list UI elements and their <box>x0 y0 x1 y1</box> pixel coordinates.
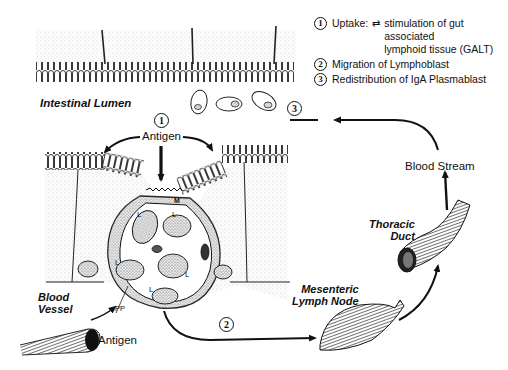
plasmablast-cells <box>189 88 279 116</box>
lymphocyte-label-5: L <box>149 285 153 294</box>
legend-uptake-detail-2: lymphoid tissue (GALT) <box>384 43 508 56</box>
legend-uptake-label: Uptake <box>332 17 365 30</box>
step-3-badge: 3 <box>314 73 327 86</box>
pp-label: PP <box>115 304 125 313</box>
legend-uptake-detail-1: stimulation of gut associated <box>384 17 508 43</box>
intestinal-lumen-label: Intestinal Lumen <box>40 97 131 109</box>
step-1-marker: 1 <box>154 113 169 128</box>
upper-epithelium <box>36 26 296 82</box>
thoracic-duct-label: Thoracic Duct <box>369 218 415 242</box>
step-1-badge: 1 <box>314 17 327 30</box>
legend-migration-label: Migration of Lymphoblast <box>332 58 449 71</box>
mesenteric-lymph-node <box>320 300 404 350</box>
bidirectional-arrow-icon: ⇄ <box>372 17 380 30</box>
antigen-label-top: Antigen <box>142 130 181 142</box>
blood-stream-label: Blood Stream <box>405 160 475 172</box>
legend-item-migration: 2 Migration of Lymphoblast <box>314 58 508 71</box>
legend: 1 Uptake: ⇄ stimulation of gut associate… <box>314 17 508 86</box>
m-cell-label: M <box>174 197 180 204</box>
step-2-badge: 2 <box>314 58 327 71</box>
step-2-marker: 2 <box>219 317 234 332</box>
legend-item-uptake: 1 Uptake: ⇄ stimulation of gut associate… <box>314 17 508 56</box>
lymphocyte-label-3: L <box>115 258 119 267</box>
legend-redistribution-label: Redistribution of IgA Plasmablast <box>332 73 486 86</box>
lymphocyte-label-4: L <box>185 270 189 279</box>
antigen-label-bottom: Antigen <box>98 334 137 346</box>
mesenteric-lymph-node-label: Mesenteric Lymph Node <box>292 283 359 307</box>
step-3-marker: 3 <box>287 101 302 116</box>
blood-vessel <box>20 329 100 355</box>
lymphocyte-label-1: L <box>137 210 141 219</box>
legend-item-redistribution: 3 Redistribution of IgA Plasmablast <box>314 73 508 86</box>
lymphocyte-label-2: L <box>172 210 176 219</box>
blood-vessel-label: Blood Vessel <box>38 291 72 315</box>
